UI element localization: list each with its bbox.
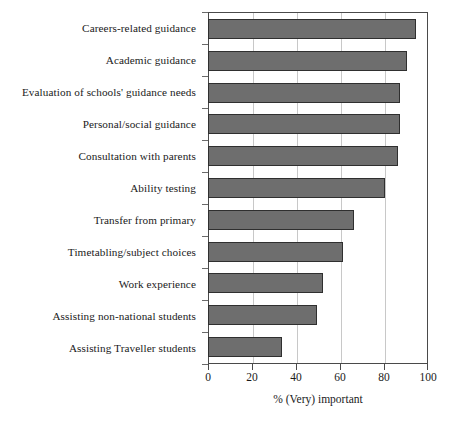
bar — [208, 114, 400, 134]
bar-slot — [209, 45, 427, 77]
category-label: Consultation with parents — [0, 140, 203, 172]
bar — [208, 273, 323, 293]
bar — [208, 337, 282, 357]
bar — [208, 19, 416, 39]
bar-chart: Careers-related guidance Academic guidan… — [0, 0, 453, 421]
category-label: Ability testing — [0, 172, 203, 204]
x-axis-tick-label: 100 — [419, 371, 436, 383]
bar — [208, 83, 400, 103]
bar-slot — [209, 268, 427, 300]
x-axis-title: % (Very) important — [208, 393, 428, 405]
category-label: Personal/social guidance — [0, 108, 203, 140]
x-axis-tick-label: 0 — [205, 371, 211, 383]
bar-slot — [209, 204, 427, 236]
category-axis-labels: Careers-related guidance Academic guidan… — [0, 12, 203, 364]
x-axis-tick — [208, 364, 209, 370]
x-axis-tick-labels: 020406080100 — [208, 371, 428, 387]
x-axis-tick-label: 80 — [378, 371, 390, 383]
x-axis-tick — [427, 364, 428, 370]
category-label: Careers-related guidance — [0, 12, 203, 44]
x-axis-ticks — [208, 364, 428, 370]
bar-slot — [209, 140, 427, 172]
bar — [208, 51, 407, 71]
category-label: Work experience — [0, 268, 203, 300]
category-label: Timetabling/subject choices — [0, 236, 203, 268]
x-axis-tick-label: 40 — [290, 371, 302, 383]
x-axis-tick-label: 60 — [334, 371, 346, 383]
x-axis-tick — [252, 364, 253, 370]
bar-slot — [209, 299, 427, 331]
bar — [208, 178, 385, 198]
bar — [208, 146, 398, 166]
x-axis-tick — [296, 364, 297, 370]
bar-slot — [209, 77, 427, 109]
bar — [208, 210, 354, 230]
bar — [208, 305, 317, 325]
category-label: Academic guidance — [0, 44, 203, 76]
x-axis-tick — [384, 364, 385, 370]
category-label: Assisting non-national students — [0, 300, 203, 332]
category-label: Transfer from primary — [0, 204, 203, 236]
bar — [208, 242, 343, 262]
category-label: Assisting Traveller students — [0, 332, 203, 364]
bar-slot — [209, 331, 427, 363]
bar-slot — [209, 108, 427, 140]
x-axis-tick — [340, 364, 341, 370]
bar-slot — [209, 236, 427, 268]
category-label: Evaluation of schools' guidance needs — [0, 76, 203, 108]
bar-slot — [209, 13, 427, 45]
plot-area — [208, 12, 428, 364]
x-axis-tick-label: 20 — [246, 371, 258, 383]
bar-slot — [209, 172, 427, 204]
bars-container — [209, 13, 427, 363]
